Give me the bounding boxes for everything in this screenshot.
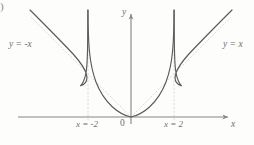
x-axis-label: x bbox=[231, 120, 235, 130]
figure-tag: ) bbox=[0, 1, 4, 12]
origin-label: 0 bbox=[120, 119, 125, 129]
oblique-asymptote-left-guide bbox=[32, 18, 132, 118]
curve-branch-left bbox=[30, 10, 88, 86]
oblique-asymptote-right-label: y = x bbox=[223, 40, 243, 50]
y-axis bbox=[129, 14, 134, 124]
y-axis-label: y bbox=[122, 8, 126, 18]
vertical-asymptote-left-label: x = -2 bbox=[76, 120, 98, 129]
function-graph-figure: ) y = -x y = x x = -2 x = 2 0 y x bbox=[0, 0, 254, 145]
vertical-asymptote-right-label: x = 2 bbox=[164, 120, 183, 129]
oblique-asymptote-left-label: y = -x bbox=[9, 40, 32, 50]
plot-canvas bbox=[0, 0, 254, 145]
oblique-asymptote-right-guide bbox=[131, 18, 231, 118]
